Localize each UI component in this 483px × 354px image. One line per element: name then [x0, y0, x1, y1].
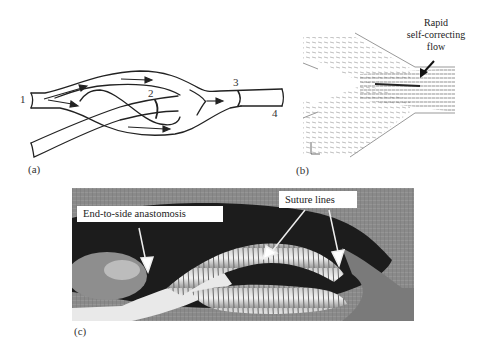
panel-c-label: (c)	[74, 325, 86, 337]
rapid-flow-annotation: Rapid self-correcting flow	[390, 17, 482, 53]
anastomosis-callout: End-to-side anastomosis	[77, 206, 223, 222]
annotation-line-2: self-correcting	[390, 29, 482, 41]
annotation-line-3: flow	[390, 41, 482, 53]
suture-lines-callout: Suture lines	[279, 191, 357, 208]
panel-b-label: (b)	[296, 164, 309, 176]
annotation-line-1: Rapid	[390, 17, 482, 29]
